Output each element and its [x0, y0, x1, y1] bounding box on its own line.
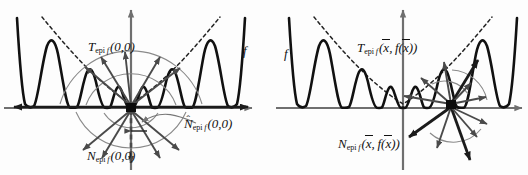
epigraph-cones-figure — [0, 0, 528, 175]
label-function-left: f — [243, 44, 247, 57]
label-regular-normal-cone-left: ̂Nepi f (0,0) — [184, 117, 232, 132]
origin-point-marker — [126, 103, 136, 112]
contact-point-marker — [446, 100, 456, 109]
label-tangent-cone-right: Tepi f (x, f(x)) — [357, 41, 417, 56]
label-normal-cone-right: Nepi f (x, f(x)) — [338, 137, 400, 152]
label-function-right: f — [284, 47, 288, 60]
label-tangent-cone-left: Tepi f (0,0) — [88, 40, 135, 55]
label-normal-cone-left: Nepi f (0,0) — [87, 149, 135, 164]
